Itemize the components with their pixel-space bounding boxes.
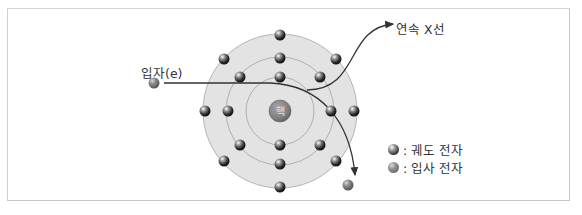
legend-label: : 궤도 전자 [403, 140, 463, 159]
xray-label: 연속 X선 [396, 19, 445, 38]
legend-label: : 입사 전자 [403, 158, 463, 177]
orbital-electron-icon [388, 144, 399, 155]
incident-electron-end [343, 180, 354, 191]
legend-orbital: : 궤도 전자 [388, 140, 463, 159]
legend-incident: : 입사 전자 [388, 158, 463, 177]
nucleus: 핵 [269, 100, 291, 122]
atom-diagram: 핵 [0, 0, 582, 215]
incident-particle-label: 입자(e) [141, 63, 182, 82]
svg-text:핵: 핵 [276, 106, 285, 117]
incident-electron-icon [388, 162, 399, 173]
